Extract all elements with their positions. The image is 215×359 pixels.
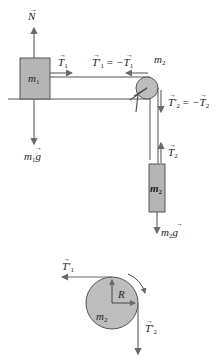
- vector-arrow-icon: →: [200, 91, 207, 99]
- vector-arrow-icon: →: [169, 91, 176, 99]
- vector-arrow-icon: →: [146, 317, 153, 325]
- weight2-label: m2g: [161, 226, 178, 240]
- vector-arrow-icon: →: [126, 51, 133, 59]
- vector-arrow-icon: →: [63, 255, 70, 263]
- pulley-label: m2: [154, 53, 166, 67]
- vector-arrow-icon: →: [59, 51, 66, 59]
- vector-arrow-icon: →: [169, 141, 176, 149]
- vector-arrow-icon: →: [93, 51, 100, 59]
- vector-arrow-icon: →: [29, 5, 37, 14]
- vector-arrow-icon: →: [176, 220, 183, 228]
- radius-label: R: [117, 288, 125, 300]
- free-body-diagram: N → m1 m1g → T1 → T'1= −T1 → → m2 T'2= −…: [0, 0, 215, 359]
- weight1-label: m1g: [24, 150, 41, 164]
- vector-arrow-icon: →: [35, 144, 42, 152]
